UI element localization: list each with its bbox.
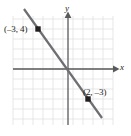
point-marker-a <box>35 26 40 31</box>
point-label-b: (2, –3) <box>83 88 106 97</box>
point-label-a: (–3, 4) <box>4 25 27 34</box>
graph-canvas <box>0 0 131 136</box>
grid-lines <box>13 16 113 125</box>
coordinate-plane-figure: (–3, 4) (2, –3) y x <box>0 0 131 136</box>
point-marker-b <box>85 96 90 101</box>
y-axis-label: y <box>65 4 69 13</box>
x-axis-label: x <box>120 63 124 72</box>
